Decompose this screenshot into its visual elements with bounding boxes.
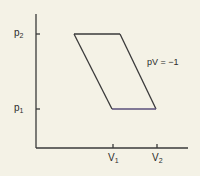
pv-diagram <box>0 0 200 176</box>
v1-label: V1 <box>108 153 119 164</box>
v2-label: V2 <box>152 153 163 164</box>
p1-label: p1 <box>14 103 23 114</box>
curve-label: pV = −1 <box>147 58 179 67</box>
cycle-parallelogram <box>74 34 156 109</box>
right-edge <box>120 34 156 109</box>
left-edge <box>74 34 112 109</box>
p2-label: p2 <box>14 28 23 39</box>
